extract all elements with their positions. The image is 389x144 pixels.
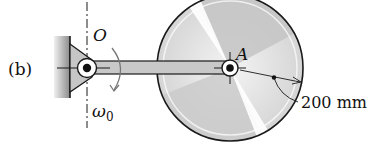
- wall-support: [54, 36, 70, 98]
- pivot-o-label: O: [93, 25, 107, 45]
- omega-symbol: ω0: [92, 101, 114, 124]
- part-label: (b): [8, 59, 32, 79]
- disk-center-label: A: [234, 44, 248, 64]
- mechanism-diagram: (b) O A ω0 200 mm: [0, 0, 389, 144]
- dimension-label: 200 mm: [301, 93, 367, 112]
- pivot-o: [78, 59, 97, 78]
